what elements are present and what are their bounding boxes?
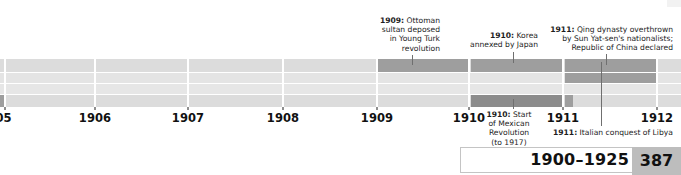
callout-year-prefix: 1911: <box>550 25 574 34</box>
timeline-row-4 <box>0 95 681 107</box>
band-column-rule <box>94 73 96 83</box>
callout-leader-mexico-1910 <box>513 99 514 109</box>
timeline-row-2 <box>0 73 681 83</box>
band-column-rule <box>562 59 564 72</box>
axis-tick-1907 <box>187 107 189 110</box>
page-corner-artifact <box>667 0 681 7</box>
axis-tick-1911 <box>562 107 564 110</box>
timeline-row-1 <box>0 59 681 72</box>
callout-leader-qing-1911 <box>606 54 607 65</box>
band-column-rule <box>94 59 96 72</box>
band-column-rule <box>468 95 470 107</box>
band-column-rule <box>282 73 284 83</box>
axis-tick-1908 <box>282 107 284 110</box>
band-column-rule <box>187 84 189 94</box>
axis-label-1909: 1909 <box>361 111 393 125</box>
band-column-rule <box>376 95 378 107</box>
band-column-rule <box>656 59 658 72</box>
band-column-rule <box>282 84 284 94</box>
band-base <box>0 95 681 107</box>
band-column-rule <box>282 95 284 107</box>
page-number-block: 387 <box>632 147 681 175</box>
band-segment <box>471 59 563 72</box>
callout-ottoman-1909: 1909: Ottoman sultan deposed in Young Tu… <box>358 16 440 53</box>
callout-year-prefix: 1909: <box>380 16 404 25</box>
callout-libya-1911: 1911: Italian conquest of Libya <box>553 128 673 137</box>
axis-label-1907: 1907 <box>172 111 204 125</box>
axis-tick-1912 <box>656 107 658 110</box>
band-base <box>0 84 681 94</box>
band-column-rule <box>187 73 189 83</box>
callout-year-prefix: 1910: <box>490 31 514 40</box>
band-segment <box>471 95 563 107</box>
callout-year-prefix: 1910: <box>486 110 510 119</box>
axis-label-1905: 05 <box>0 111 12 125</box>
band-column-rule <box>376 59 378 72</box>
band-column-rule <box>656 73 658 83</box>
callout-qing-1911: 1911: Qing dynasty overthrown by Sun Yat… <box>540 25 673 53</box>
band-column-rule <box>187 59 189 72</box>
band-column-rule <box>562 84 564 94</box>
band-segment <box>377 59 469 72</box>
timeline-page: 051906190719081909191019111912 1909: Ott… <box>0 0 681 175</box>
timeline-bands <box>0 59 681 107</box>
axis-label-1911: 1911 <box>547 111 579 125</box>
callout-leader-korea-1910 <box>513 52 514 63</box>
band-column-rule <box>376 73 378 83</box>
band-column-rule <box>562 95 564 107</box>
callout-leader-ottoman-1909 <box>412 55 413 65</box>
axis-label-1908: 1908 <box>267 111 299 125</box>
axis-tick-1909 <box>376 107 378 110</box>
callout-leader-libya-1911 <box>601 62 602 126</box>
band-column-rule <box>187 95 189 107</box>
callout-mexico-1910: 1910: Start of Mexican Revolution (to 19… <box>479 110 539 147</box>
band-column-rule <box>4 59 6 72</box>
band-column-rule <box>656 84 658 94</box>
axis-tick-1910 <box>468 107 470 110</box>
axis-tick-1906 <box>94 107 96 110</box>
page-number: 387 <box>632 151 681 170</box>
timeline-row-3 <box>0 84 681 94</box>
band-column-rule <box>94 84 96 94</box>
band-column-rule <box>468 73 470 83</box>
band-column-rule <box>4 73 6 83</box>
band-column-rule <box>94 95 96 107</box>
axis-tick-1905 <box>4 107 6 110</box>
band-column-rule <box>282 59 284 72</box>
band-column-rule <box>656 95 658 107</box>
band-segment <box>565 59 657 72</box>
band-column-rule <box>562 73 564 83</box>
band-column-rule <box>4 84 6 94</box>
band-column-rule <box>376 84 378 94</box>
callout-korea-1910: 1910: Korea annexed by Japan <box>440 31 538 49</box>
axis-label-1906: 1906 <box>79 111 111 125</box>
band-column-rule <box>468 84 470 94</box>
axis-label-1912: 1912 <box>641 111 673 125</box>
band-column-rule <box>468 59 470 72</box>
band-segment <box>565 73 657 83</box>
band-segment <box>565 95 573 107</box>
page-footer: 1900–1925 387 <box>460 147 681 175</box>
band-column-rule <box>4 95 6 107</box>
callout-year-prefix: 1911: <box>553 128 577 137</box>
footer-date-range: 1900–1925 <box>530 150 629 169</box>
